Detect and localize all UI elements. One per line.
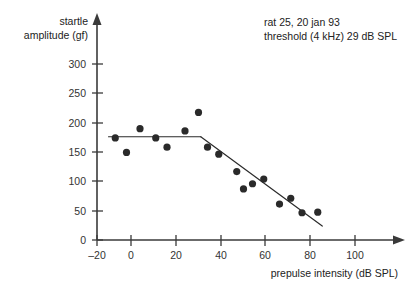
data-point xyxy=(112,134,119,141)
data-point xyxy=(195,109,202,116)
data-point xyxy=(260,176,267,183)
y-tick-label-250: 250 xyxy=(68,87,86,99)
x-tick-label-minus20: –20 xyxy=(88,249,106,261)
annotation-subject: rat 25, 20 jan 93 xyxy=(264,16,340,28)
x-tick-label-60: 60 xyxy=(259,249,271,261)
data-point xyxy=(215,151,222,158)
data-point xyxy=(181,127,188,134)
x-axis-tick-labels: –20 0 20 40 60 80 100 xyxy=(88,249,364,261)
x-axis-title: prepulse intensity (dB SPL) xyxy=(271,267,398,279)
y-tick-label-150: 150 xyxy=(68,146,86,158)
data-point xyxy=(233,168,240,175)
data-point xyxy=(314,209,321,216)
y-tick-label-50: 50 xyxy=(74,205,86,217)
fit-line-group xyxy=(109,137,323,226)
data-point xyxy=(163,144,170,151)
y-axis-title: startle amplitude (gf) xyxy=(24,15,88,41)
data-point xyxy=(298,209,305,216)
y-axis-title-line1: startle xyxy=(59,15,88,27)
scatter-plot-canvas: 0 50 100 150 200 250 300 –20 0 20 40 60 … xyxy=(0,0,416,284)
data-point xyxy=(123,149,130,156)
data-point xyxy=(152,134,159,141)
y-tick-label-100: 100 xyxy=(68,175,86,187)
annotation-threshold: threshold (4 kHz) 29 dB SPL xyxy=(264,30,397,42)
data-points-group xyxy=(112,109,322,217)
startle-amplitude-figure: 0 50 100 150 200 250 300 –20 0 20 40 60 … xyxy=(0,0,416,284)
y-axis-tick-labels: 0 50 100 150 200 250 300 xyxy=(68,58,86,246)
data-point xyxy=(287,195,294,202)
x-tick-label-0: 0 xyxy=(128,249,134,261)
data-point xyxy=(204,144,211,151)
y-axis-arrowhead xyxy=(93,13,102,25)
y-axis-group xyxy=(93,13,102,240)
x-tick-label-20: 20 xyxy=(170,249,182,261)
x-tick-label-100: 100 xyxy=(346,249,364,261)
data-point xyxy=(240,185,247,192)
data-point xyxy=(276,200,283,207)
x-axis-group xyxy=(97,236,405,245)
data-point xyxy=(136,125,143,132)
y-tick-label-300: 300 xyxy=(68,58,86,70)
x-tick-label-80: 80 xyxy=(304,249,316,261)
x-axis-arrowhead xyxy=(393,236,405,245)
annotation-block: rat 25, 20 jan 93 threshold (4 kHz) 29 d… xyxy=(264,16,397,42)
y-tick-label-0: 0 xyxy=(80,234,86,246)
data-point xyxy=(249,180,256,187)
y-tick-label-200: 200 xyxy=(68,117,86,129)
x-tick-label-40: 40 xyxy=(215,249,227,261)
y-axis-title-line2: amplitude (gf) xyxy=(24,29,88,41)
